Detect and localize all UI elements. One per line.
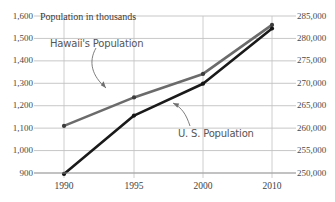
us-series-label: U. S. Population xyxy=(178,128,254,139)
right-tick-255000: 255,000 xyxy=(297,146,326,155)
left-tick-1600: 1,600 xyxy=(13,12,33,21)
left-tick-900: 900 xyxy=(20,169,34,178)
hawaii-callout-arrow xyxy=(92,48,106,88)
left-tick-1400: 1,400 xyxy=(13,56,33,65)
right-tick-250000: 250,000 xyxy=(297,169,326,178)
right-tick-280000: 280,000 xyxy=(297,34,326,43)
data-point-us-1995 xyxy=(132,114,136,118)
us-callout-arrow xyxy=(173,103,190,126)
data-point-hawaii-1995 xyxy=(132,95,136,99)
left-tick-1300: 1,300 xyxy=(13,79,33,88)
left-tick-1200: 1,200 xyxy=(13,101,33,110)
data-point-hawaii-2010 xyxy=(270,23,274,27)
right-tick-270000: 270,000 xyxy=(297,79,326,88)
data-point-hawaii-1990 xyxy=(62,124,66,128)
chart-canvas xyxy=(0,0,335,202)
x-tick-1990: 1990 xyxy=(55,181,74,191)
population-line-chart: 1,600 1,500 1,400 1,300 1,200 1,100 1,00… xyxy=(0,0,335,202)
left-tick-1500: 1,500 xyxy=(13,34,33,43)
x-tick-1995: 1995 xyxy=(125,181,144,191)
right-tick-260000: 260,000 xyxy=(297,124,326,133)
right-tick-285000: 285,000 xyxy=(297,12,326,21)
left-tick-1100: 1,100 xyxy=(13,124,33,133)
data-point-us-2010 xyxy=(270,26,274,30)
right-tick-275000: 275,000 xyxy=(297,56,326,65)
hawaii-series-label: Hawaii's Population xyxy=(50,38,143,49)
chart-title-note: Population in thousands xyxy=(40,11,136,22)
right-tick-265000: 265,000 xyxy=(297,101,326,110)
left-tick-1000: 1,000 xyxy=(13,146,33,155)
data-point-us-2000 xyxy=(201,82,205,86)
data-point-hawaii-2000 xyxy=(201,72,205,76)
x-tick-2000: 2000 xyxy=(194,181,213,191)
x-tick-2010: 2010 xyxy=(263,181,282,191)
data-point-us-1990 xyxy=(62,172,66,176)
